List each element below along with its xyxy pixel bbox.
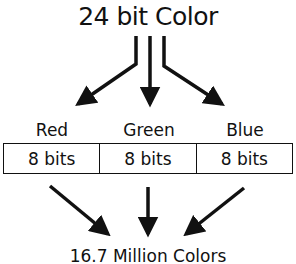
cell-green-bits: 8 bits [100, 144, 196, 173]
cell-red-bits: 8 bits [4, 144, 100, 173]
channel-label-blue: Blue [196, 120, 294, 140]
channel-label-green: Green [100, 120, 198, 140]
split-arrows [78, 36, 222, 104]
cell-blue-bits: 8 bits [197, 144, 292, 173]
result-label: 16.7 Million Colors [0, 246, 296, 264]
merge-arrows [50, 186, 244, 234]
bit-cells: 8 bits 8 bits 8 bits [3, 143, 293, 174]
channel-label-red: Red [3, 120, 101, 140]
